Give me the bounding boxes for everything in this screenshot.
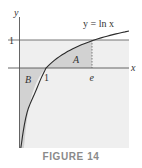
curve-label-eq: = bbox=[88, 18, 99, 29]
region-a-label: A bbox=[72, 54, 80, 65]
x-axis-label: x bbox=[130, 62, 136, 73]
x-tick-1-label: 1 bbox=[44, 72, 49, 83]
region-b-label: B bbox=[25, 74, 31, 85]
figure: y x 1 1 e A B y = ln x FIGURE 14 bbox=[0, 0, 142, 168]
curve-label-fn: ln bbox=[99, 18, 109, 29]
curve-label: y = ln x bbox=[83, 18, 114, 29]
figure-caption: FIGURE 14 bbox=[0, 151, 142, 162]
y-axis-label: y bbox=[13, 7, 19, 18]
curve-label-arg: x bbox=[109, 18, 114, 29]
plot-canvas: y x 1 1 e A B y = ln x bbox=[0, 0, 142, 168]
y-tick-1-label: 1 bbox=[9, 35, 14, 46]
x-tick-e-label: e bbox=[90, 72, 95, 83]
